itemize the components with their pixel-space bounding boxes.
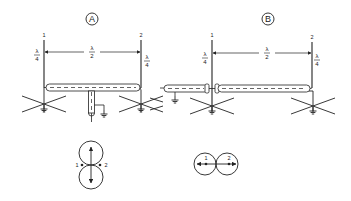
- height-label-b1: λ 4: [202, 51, 208, 65]
- panel-a: A 1 λ 4 2 λ 4 λ 2: [22, 13, 163, 189]
- panel-a-label: A: [86, 13, 98, 25]
- height-label-b2: λ 4: [314, 53, 320, 67]
- svg-text:2: 2: [310, 34, 313, 40]
- svg-text:2: 2: [104, 162, 107, 168]
- svg-text:2: 2: [265, 54, 269, 60]
- panel-b-label: B: [262, 13, 274, 25]
- svg-text:1: 1: [75, 162, 78, 168]
- svg-text:λ: λ: [266, 46, 269, 52]
- antenna-a2: 2: [139, 32, 142, 112]
- svg-text:λ: λ: [316, 53, 319, 59]
- svg-text:1: 1: [42, 32, 45, 38]
- svg-text:2: 2: [227, 155, 230, 161]
- svg-text:2: 2: [139, 32, 142, 38]
- svg-text:2: 2: [90, 53, 94, 59]
- svg-text:B: B: [265, 14, 271, 24]
- svg-text:1: 1: [204, 155, 207, 161]
- height-label-a1: λ 4: [34, 48, 40, 62]
- panel-b: B 1 λ 4 2 λ 4 λ 2: [150, 13, 335, 175]
- svg-text:1: 1: [210, 32, 213, 38]
- svg-text:4: 4: [203, 59, 207, 65]
- radiation-pattern-a: 1 2: [75, 141, 107, 189]
- antenna-a1: 1: [42, 32, 45, 112]
- svg-text:A: A: [89, 14, 95, 24]
- svg-text:λ: λ: [204, 51, 207, 57]
- spacing-dimension-b: λ 2: [213, 46, 311, 60]
- svg-text:4: 4: [35, 56, 39, 62]
- antenna-array-diagram: A 1 λ 4 2 λ 4 λ 2: [0, 0, 351, 201]
- svg-text:4: 4: [315, 61, 319, 67]
- svg-text:λ: λ: [91, 45, 94, 51]
- radiation-pattern-b: 1 2: [194, 153, 238, 175]
- svg-text:λ: λ: [36, 48, 39, 54]
- svg-text:4: 4: [145, 62, 149, 68]
- coax-feedline-b: [160, 84, 312, 103]
- antenna-b2: 2: [309, 34, 314, 112]
- svg-text:λ: λ: [146, 54, 149, 60]
- height-label-a2: λ 4: [144, 54, 150, 68]
- spacing-dimension-a: λ 2: [45, 45, 140, 59]
- antenna-b1: 1: [210, 32, 213, 112]
- coax-feedline-a: [44, 84, 141, 122]
